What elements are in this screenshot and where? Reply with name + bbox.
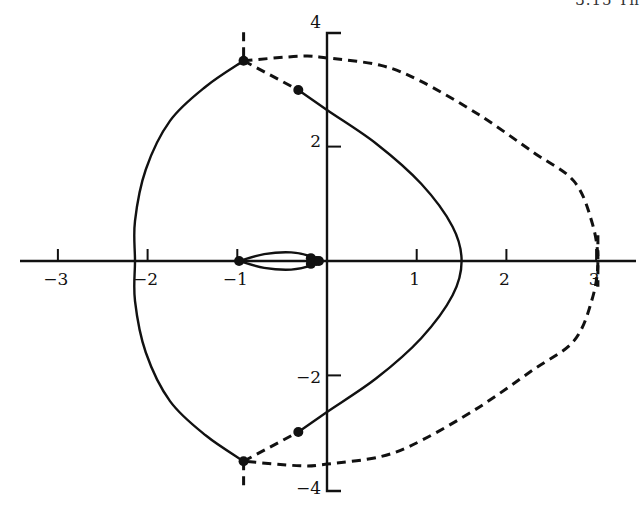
locus-point-marker	[239, 56, 249, 66]
x-tick-label: 1	[409, 269, 420, 289]
x-tick-label: −2	[133, 269, 158, 289]
locus-point-marker	[234, 256, 244, 266]
y-tick-label: −4	[296, 478, 321, 498]
y-tick-label: 2	[310, 131, 321, 151]
locus-point-marker	[293, 85, 303, 95]
y-tick-label: 4	[310, 12, 321, 32]
x-tick-label: −1	[223, 269, 248, 289]
x-tick-labels: −3−2−1123	[43, 269, 599, 289]
locus-point-marker	[239, 456, 249, 466]
x-tick-label: 2	[499, 269, 510, 289]
locus-point-marker	[314, 256, 324, 266]
dashed-inner-connector-lower	[244, 432, 299, 461]
locus-plot: −3−2−1123 42−2−4	[0, 0, 644, 505]
locus-point-marker	[293, 427, 303, 437]
x-tick-label: −3	[43, 269, 68, 289]
axes	[20, 33, 636, 491]
y-tick-label: −2	[296, 367, 321, 387]
dashed-inner-connector	[244, 61, 299, 90]
